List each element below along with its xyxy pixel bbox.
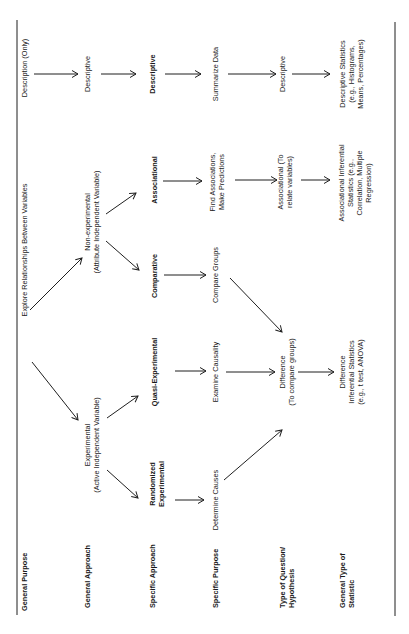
svg-text:(Attribute Independent Variabl: (Attribute Independent Variable) [92, 171, 101, 274]
svg-text:Hypothesis: Hypothesis [287, 569, 296, 608]
comparative-text: Comparative [150, 254, 159, 298]
svg-text:Statistics (e.g.,: Statistics (e.g., [346, 159, 355, 207]
svg-text:Experimental: Experimental [83, 423, 92, 466]
arrow-nonexperimental-to-comparative [106, 241, 139, 270]
svg-text:General Approach: General Approach [83, 545, 92, 608]
flowchart-page: General Purpose General Approach Specifi… [0, 0, 409, 634]
svg-text:Associational Inferential: Associational Inferential [337, 144, 346, 221]
descriptive-approach-text: Descriptive [83, 56, 92, 92]
svg-text:Difference: Difference [278, 355, 287, 388]
randomized-experimental-node: Randomized Experimental [148, 461, 166, 507]
svg-text:Specific Approach: Specific Approach [148, 544, 157, 608]
svg-text:Find Associations,: Find Associations, [208, 153, 217, 212]
row-label-specific-approach: Specific Approach [148, 544, 157, 608]
arrow-explore-to-nonexperimental [30, 258, 82, 310]
arrow-experimental-to-randomized [107, 470, 138, 498]
svg-text:General Purpose: General Purpose [20, 553, 29, 611]
svg-text:Statistic: Statistic [347, 580, 356, 608]
difference-question-node: Difference (To compare groups) [278, 338, 296, 405]
arrow-nonexperimental-to-associational [106, 193, 136, 214]
experimental-node: Experimental (Active Independent Variabl… [83, 397, 101, 493]
descriptive-specific-approach-text: Descriptive [148, 54, 157, 93]
quasi-experimental-text: Quasi-Experimental [150, 338, 159, 407]
svg-text:(e.g., t test, ANOVA): (e.g., t test, ANOVA) [356, 339, 365, 405]
description-only-text: Description (Only) [20, 39, 29, 97]
svg-text:Specific Purpose: Specific Purpose [211, 549, 220, 608]
row-label-type-of-question: Type of Question/ Hypothesis [278, 547, 296, 608]
row-label-general-purpose: General Purpose [20, 553, 29, 611]
svg-text:Make Predictions: Make Predictions [217, 154, 226, 210]
examine-causality-text: Examine Causality [211, 341, 220, 402]
svg-text:Regression): Regression) [364, 163, 373, 202]
research-approach-flowchart: General Purpose General Approach Specifi… [0, 0, 409, 634]
svg-text:(e.g., Histograms,: (e.g., Histograms, [347, 45, 356, 103]
associational-approach-text: Associational [150, 156, 159, 203]
arrow-explore-to-experimental [32, 362, 78, 420]
find-associations-node: Find Associations, Make Predictions [208, 153, 226, 212]
descriptive-stats-node: Descriptive Statistics (e.g., Histograms… [338, 39, 365, 108]
svg-text:Correlation, Multiple: Correlation, Multiple [355, 151, 364, 216]
compare-groups-text: Compare Groups [211, 247, 220, 303]
determine-causes-text: Determine Causes [211, 469, 220, 530]
svg-text:(Active Independent Variable): (Active Independent Variable) [92, 397, 101, 493]
svg-text:Means, Percentages): Means, Percentages) [356, 39, 365, 108]
difference-inferential-stats-node: Difference Inferential Statistics (e.g.,… [338, 339, 365, 405]
svg-text:relate variables): relate variables) [285, 156, 294, 208]
associational-question-node: Associational (To relate variables) [276, 154, 294, 209]
associational-inferential-stats-node: Associational Inferential Statistics (e.… [337, 144, 373, 221]
explore-relationships-text: Explore Relationships Between Variables [20, 183, 29, 316]
svg-text:Descriptive Statistics: Descriptive Statistics [338, 40, 347, 108]
arrow-experimental-to-quasi [107, 396, 138, 418]
svg-text:Inferential Statistics: Inferential Statistics [347, 340, 356, 404]
descriptive-question-text: Descriptive [278, 56, 287, 92]
row-label-general-type-of-statistic: General Type of Statistic [338, 553, 356, 608]
svg-text:Associational (To: Associational (To [276, 154, 285, 209]
svg-text:Non-experimental: Non-experimental [83, 193, 92, 251]
svg-text:General Type of: General Type of [338, 553, 347, 608]
arrow-compare-to-difference [230, 278, 282, 332]
svg-text:Experimental: Experimental [157, 461, 166, 507]
row-label-general-approach: General Approach [83, 545, 92, 608]
summarize-data-text: Summarize Data [211, 46, 220, 101]
arrow-determine-to-difference [224, 430, 282, 480]
svg-text:(To compare groups): (To compare groups) [287, 338, 296, 405]
svg-text:Randomized: Randomized [148, 462, 157, 505]
svg-text:Difference: Difference [338, 355, 347, 388]
row-label-specific-purpose: Specific Purpose [211, 549, 220, 608]
non-experimental-node: Non-experimental (Attribute Independent … [83, 171, 101, 274]
svg-text:Type of Question/: Type of Question/ [278, 547, 287, 608]
